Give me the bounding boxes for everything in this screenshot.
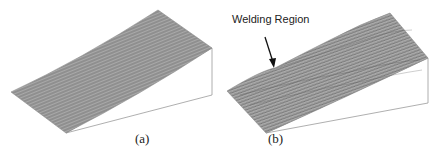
welding-region-annotation: Welding Region [232,13,309,25]
welding-region-arrow-icon [265,37,276,68]
figure-canvas [0,0,436,154]
panel-a-surface [11,10,212,133]
panel-b-label: (b) [268,131,283,147]
panel-a-label: (a) [135,131,149,147]
panel-b-surface [227,13,428,133]
